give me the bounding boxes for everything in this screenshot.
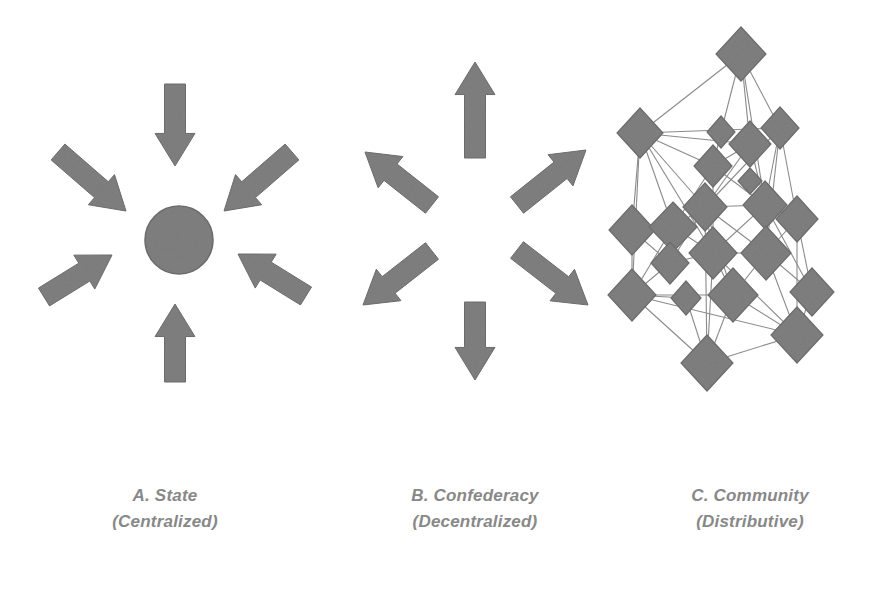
panel-c-caption-title: C. Community xyxy=(625,483,871,509)
network-node-diamond xyxy=(681,335,733,391)
panel-a-caption: A. State (Centralized) xyxy=(20,483,310,536)
arrow-upper-left-outward xyxy=(365,152,439,213)
panel-b-caption-title: B. Confederacy xyxy=(330,483,620,509)
network-node-diamond xyxy=(694,145,732,187)
network-node-diamond xyxy=(716,27,766,81)
panel-b-shapes xyxy=(363,62,588,380)
arrow-upper-left-inward xyxy=(51,144,126,211)
network-node-diamond xyxy=(608,269,656,321)
arrow-bottom-outward xyxy=(455,302,495,380)
arrow-bottom-inward xyxy=(155,304,195,382)
network-node-diamond xyxy=(609,205,655,255)
panel-a-shapes xyxy=(38,84,311,382)
panel-a-caption-subtitle: (Centralized) xyxy=(20,509,310,535)
panel-a-caption-title: A. State xyxy=(20,483,310,509)
central-authority-circle xyxy=(145,206,213,274)
arrow-upper-right-inward xyxy=(224,144,299,211)
arrow-lower-left-inward xyxy=(38,255,112,306)
panel-c-caption: C. Community (Distributive) xyxy=(625,483,871,536)
arrow-upper-right-outward xyxy=(510,150,586,213)
arrow-lower-right-outward xyxy=(511,242,588,305)
arrow-lower-right-inward xyxy=(238,254,312,305)
network-node-diamond xyxy=(671,281,701,315)
panel-b-caption: B. Confederacy (Decentralized) xyxy=(330,483,620,536)
panel-b-caption-subtitle: (Decentralized) xyxy=(330,509,620,535)
arrow-lower-left-outward xyxy=(363,243,438,305)
network-node-diamond xyxy=(771,307,823,363)
arrow-top-outward xyxy=(455,62,495,158)
arrow-top-inward xyxy=(155,84,195,166)
figure-root: A. State (Centralized) B. Confederacy (D… xyxy=(0,0,871,589)
panel-c-caption-subtitle: (Distributive) xyxy=(625,509,871,535)
network-node-diamond xyxy=(651,242,689,284)
network-nodes xyxy=(608,27,834,391)
